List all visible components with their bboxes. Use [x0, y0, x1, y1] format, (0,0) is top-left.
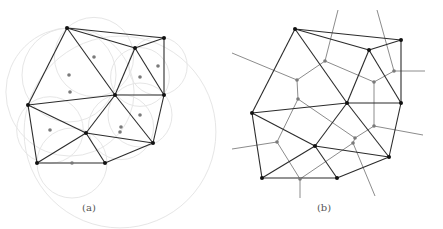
voronoi-node [323, 59, 327, 63]
voronoi-ray [232, 53, 297, 80]
site-point [260, 176, 264, 180]
voronoi-ray [353, 143, 375, 196]
site-point [162, 36, 166, 40]
voronoi-ray [232, 142, 277, 149]
voronoi-edge [277, 142, 300, 179]
caption-b: (b) [317, 202, 331, 213]
delaunay-edge [295, 29, 347, 103]
site-point [151, 141, 155, 145]
delaunay-edge [252, 113, 315, 146]
delaunay-edge [115, 95, 153, 143]
delaunay-edge [295, 29, 401, 40]
site-point [250, 111, 254, 115]
circumcenter-point [67, 73, 71, 77]
site-point [65, 26, 69, 30]
delaunay-edge [337, 157, 389, 178]
circumcenter-point [48, 128, 52, 132]
voronoi-ray [374, 126, 423, 135]
circumcenter-point [119, 125, 123, 129]
circumcenter-point [138, 113, 142, 117]
delaunay-edge [37, 133, 86, 163]
voronoi-node [392, 69, 396, 73]
circumcenter-point [92, 55, 96, 59]
site-point [84, 131, 88, 135]
site-point [399, 38, 403, 42]
site-point [313, 144, 317, 148]
site-point [35, 161, 39, 165]
figure-canvas [0, 0, 443, 229]
voronoi-node [275, 140, 279, 144]
delaunay-edge [315, 146, 337, 178]
voronoi-edge [297, 80, 298, 99]
voronoi-node [372, 124, 376, 128]
site-point [387, 155, 391, 159]
site-point [293, 27, 297, 31]
delaunay-edge [369, 40, 401, 50]
delaunay-edge [389, 103, 401, 157]
caption-a: (a) [82, 202, 96, 213]
delaunay-edge [28, 105, 37, 163]
delaunay-edge [252, 29, 295, 113]
delaunay-edge [347, 103, 389, 157]
site-point [399, 101, 403, 105]
circumcenter-point [68, 90, 72, 94]
voronoi-edge [374, 71, 394, 82]
voronoi-edge [297, 61, 325, 80]
panel-b-delaunay-voronoi [232, 10, 425, 198]
voronoi-node [372, 80, 376, 84]
voronoi-edge [325, 61, 374, 82]
delaunay-edge [315, 146, 389, 157]
site-point [367, 48, 371, 52]
circumcenter-point [118, 130, 122, 134]
circumcircles [6, 17, 216, 228]
circumcenter-point [70, 161, 74, 165]
voronoi-edge [355, 126, 374, 138]
voronoi-node [295, 78, 299, 82]
site-point [113, 93, 117, 97]
circumcenter-point [156, 64, 160, 68]
voronoi-node [298, 177, 302, 181]
site-point [26, 103, 30, 107]
site-point [345, 101, 349, 105]
panel-a-delaunay-circumcircles [6, 17, 216, 228]
voronoi-ray [377, 10, 394, 71]
delaunay-edge [347, 50, 369, 103]
delaunay-edge [262, 146, 315, 178]
site-point [103, 161, 107, 165]
site-point [335, 176, 339, 180]
delaunay-edge [28, 105, 86, 133]
site-point [162, 93, 166, 97]
delaunay-edges [252, 29, 401, 178]
voronoi-ray [325, 10, 338, 61]
site-point [133, 46, 137, 50]
delaunay-edge [252, 103, 347, 113]
delaunay-edge [315, 103, 347, 146]
voronoi-edge [300, 143, 353, 179]
delaunay-edge [67, 28, 115, 95]
delaunay-edge [115, 48, 135, 95]
voronoi-nodes [275, 59, 396, 181]
delaunay-edge [105, 143, 153, 163]
voronoi-node [353, 136, 357, 140]
voronoi-node [296, 97, 300, 101]
voronoi-node [351, 141, 355, 145]
circumcenter-point [138, 75, 142, 79]
